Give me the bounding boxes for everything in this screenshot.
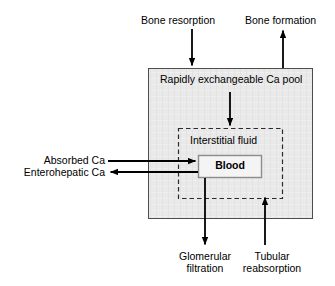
tubular-reabsorption-label-line1: Tubular	[230, 250, 314, 262]
calcium-exchange-diagram: Bone resorption Bone formation Rapidly e…	[0, 0, 335, 286]
interstitial-fluid-label: Interstitial fluid	[190, 134, 257, 146]
enterohepatic-ca-label: Enterohepatic Ca	[4, 166, 105, 178]
tubular-reabsorption-label: Tubular reabsorption	[230, 250, 314, 274]
tubular-reabsorption-label-line2: reabsorption	[230, 262, 314, 274]
blood-label: Blood	[198, 159, 262, 171]
bone-formation-label: Bone formation	[245, 14, 316, 26]
ca-pool-label: Rapidly exchangeable Ca pool	[160, 73, 302, 85]
bone-resorption-label: Bone resorption	[141, 14, 215, 26]
diagram-canvas	[0, 0, 335, 286]
absorbed-ca-label: Absorbed Ca	[20, 154, 105, 166]
